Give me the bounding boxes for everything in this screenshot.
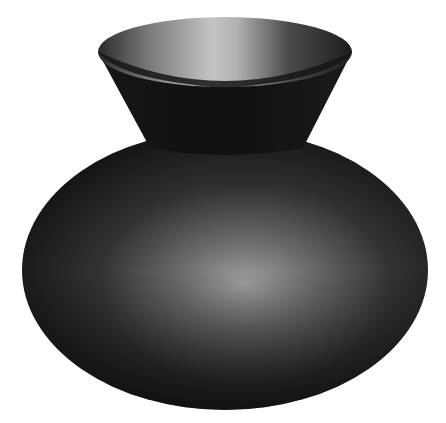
vase-body bbox=[22, 130, 428, 410]
vase-render bbox=[0, 0, 446, 423]
